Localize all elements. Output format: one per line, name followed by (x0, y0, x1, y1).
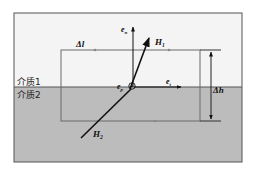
delta-h-label: Δh (212, 85, 224, 95)
delta-l-label: Δl (75, 39, 85, 49)
medium2-region (14, 87, 242, 162)
loop-direction-marker-top-right (168, 49, 171, 52)
medium1-label: 介质1 (17, 76, 41, 87)
medium2-label: 介质2 (17, 89, 41, 100)
loop-direction-marker-bottom (154, 120, 157, 123)
boundary-diagram: Δh Δl 介质1 介质2 en et ep H1 H2 (0, 0, 253, 174)
loop-direction-marker-top-left (94, 49, 97, 52)
